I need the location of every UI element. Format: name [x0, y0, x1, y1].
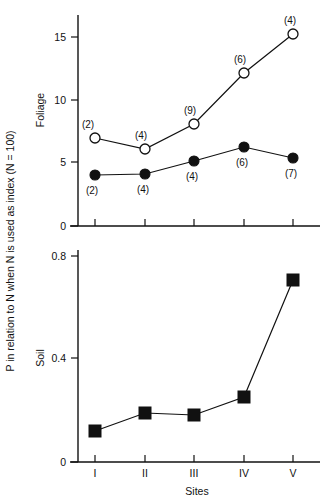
open-circle-point-label: (9): [184, 105, 196, 116]
filled-circle-point-label: (4): [137, 184, 149, 195]
panel-soil: Soil 0 0.4 0.8 I: [34, 250, 320, 497]
open-circle-marker: [288, 29, 298, 39]
filled-square-marker: [188, 409, 200, 421]
open-circle-series-line: [95, 34, 293, 149]
x-axis-title-text: Sites: [185, 485, 208, 497]
filled-square-marker: [238, 391, 250, 403]
panel-title-foliage: Foliage: [34, 93, 46, 128]
open-circle-point-label: (6): [234, 54, 246, 65]
site-label-3: III: [190, 467, 199, 479]
open-circle-marker: [189, 119, 199, 129]
filled-square-marker: [139, 407, 151, 419]
series-filled-square: [89, 274, 299, 437]
y-axis-title-text: P in relation to N when N is used as ind…: [4, 130, 16, 371]
open-circle-marker: [140, 144, 150, 154]
filled-circle-marker: [189, 156, 199, 166]
panel-title-soil: Soil: [34, 349, 46, 367]
filled-circle-point-label: (2): [86, 185, 98, 196]
panel-foliage: Foliage 0 5 10 15: [34, 15, 320, 232]
series-filled-circle: (2) (4) (4) (6) (7): [86, 142, 298, 196]
filled-circle-marker: [288, 153, 298, 163]
filled-square-series-line: [95, 280, 293, 431]
open-circle-point-label: (4): [135, 130, 147, 141]
open-circle-point-label: (4): [284, 15, 296, 26]
foliage-ytick-label-15: 15: [54, 31, 66, 43]
filled-square-marker: [89, 425, 101, 437]
series-open-circle: (2) (4) (9) (6) (4): [82, 15, 298, 154]
open-circle-marker: [90, 133, 100, 143]
filled-circle-marker: [90, 170, 100, 180]
open-circle-marker: [239, 68, 249, 78]
foliage-ytick-label-10: 10: [54, 94, 66, 106]
soil-axes: [70, 250, 320, 462]
site-label-1: I: [94, 467, 97, 479]
soil-ytick-label-0: 0: [60, 456, 66, 468]
soil-y-ticks: 0 0.4 0.8: [51, 250, 78, 468]
soil-ytick-label-08: 0.8: [51, 250, 66, 262]
filled-square-marker: [287, 274, 299, 286]
chart-svg: P in relation to N when N is used as ind…: [0, 0, 334, 502]
foliage-x-ticks: [95, 219, 293, 226]
foliage-ytick-label-5: 5: [60, 156, 66, 168]
site-label-4: IV: [239, 467, 249, 479]
open-circle-point-label: (2): [82, 119, 94, 130]
filled-circle-marker: [140, 169, 150, 179]
foliage-ytick-label-0: 0: [60, 220, 66, 232]
soil-ytick-label-04: 0.4: [51, 352, 66, 364]
filled-circle-point-label: (7): [285, 168, 297, 179]
site-label-2: II: [142, 467, 148, 479]
filled-circle-point-label: (6): [236, 157, 248, 168]
figure-container: P in relation to N when N is used as ind…: [0, 0, 334, 502]
soil-x-ticks: I II III IV V: [94, 455, 297, 479]
site-label-5: V: [289, 467, 296, 479]
foliage-y-ticks: 0 5 10 15: [54, 31, 78, 232]
filled-circle-point-label: (4): [186, 171, 198, 182]
filled-circle-marker: [239, 142, 249, 152]
figure-y-axis-title: P in relation to N when N is used as ind…: [4, 130, 16, 371]
